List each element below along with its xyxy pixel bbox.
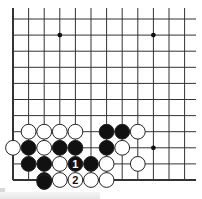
- white-stone-disc: [130, 124, 145, 139]
- white-stone-disc: [6, 140, 21, 155]
- white-stone: [6, 140, 21, 155]
- black-stone: [21, 140, 36, 155]
- black-stone: [115, 124, 130, 139]
- black-stone-disc: [115, 124, 130, 139]
- white-stone: [21, 124, 36, 139]
- black-stone: [84, 157, 99, 172]
- white-stone-disc: [115, 140, 130, 155]
- move-number-label: 1: [72, 158, 78, 170]
- black-stone-disc: [37, 175, 52, 190]
- black-stone: [52, 140, 67, 155]
- white-stone: [115, 140, 130, 155]
- black-stone: [68, 140, 83, 155]
- white-stone: [68, 124, 83, 139]
- white-stone-disc: [21, 124, 36, 139]
- white-stone-disc: [84, 173, 99, 188]
- black-stone-disc: [99, 140, 114, 155]
- black-stone-disc: [21, 157, 36, 172]
- white-stone: [52, 173, 67, 188]
- white-stone: [130, 157, 145, 172]
- white-stone: [52, 124, 67, 139]
- black-stone: [21, 157, 36, 172]
- go-board: 12: [0, 0, 202, 199]
- black-stone: [37, 175, 52, 190]
- black-stone: [99, 124, 114, 139]
- white-stone: [99, 157, 114, 172]
- white-stone-disc: [52, 124, 67, 139]
- white-stone-disc: [99, 157, 114, 172]
- star-point: [151, 33, 156, 38]
- black-stone-disc: [37, 157, 52, 172]
- white-stone: [99, 173, 114, 188]
- star-point: [151, 145, 156, 150]
- white-stone-disc: [52, 157, 67, 172]
- star-point: [57, 33, 62, 38]
- white-stone: [37, 140, 52, 155]
- black-stone-disc: [21, 140, 36, 155]
- white-stone: [52, 157, 67, 172]
- white-stone: [130, 124, 145, 139]
- white-stone-disc: [99, 173, 114, 188]
- white-stone-disc: [68, 124, 83, 139]
- black-stone-disc: [52, 140, 67, 155]
- white-stone-disc: [37, 140, 52, 155]
- white-stone: [84, 173, 99, 188]
- white-stone: 2: [68, 173, 83, 188]
- black-stone-disc: [68, 140, 83, 155]
- white-stone-disc: [37, 124, 52, 139]
- horizontal-scrollbar[interactable]: [0, 192, 100, 199]
- white-stone-disc: [130, 157, 145, 172]
- move-number-label: 2: [72, 174, 78, 186]
- black-stone: 1: [68, 157, 83, 172]
- black-stone: [99, 140, 114, 155]
- white-stone: [37, 124, 52, 139]
- black-stone-disc: [84, 157, 99, 172]
- black-stone: [37, 157, 52, 172]
- black-stone-disc: [99, 124, 114, 139]
- white-stone-disc: [52, 173, 67, 188]
